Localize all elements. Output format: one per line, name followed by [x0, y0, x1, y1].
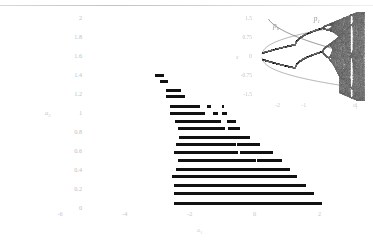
- parameter-interval-bar: [174, 151, 238, 154]
- main-y-tick-label: 1.8: [36, 33, 82, 40]
- inset-x-tick-label: -2: [266, 102, 290, 108]
- inset-bifurcation-plot: 1.50.750-0.75-1.5 -2-11 p0p1 x a1: [214, 2, 373, 120]
- main-y-tick-label: 2: [36, 14, 82, 21]
- main-x-tick-label: -4: [110, 210, 140, 217]
- main-x-tick-label: 2: [305, 210, 335, 217]
- main-x-axis-ticks: -6-4-202: [0, 210, 373, 220]
- parameter-interval-bar: [174, 184, 306, 187]
- main-y-tick-label: 0.8: [36, 128, 82, 135]
- inset-y-tick-label: 1.5: [222, 15, 252, 21]
- parameter-interval-bar: [257, 159, 282, 162]
- main-x-tick-label: -2: [175, 210, 205, 217]
- main-y-tick-label: 0.2: [36, 185, 82, 192]
- main-x-tick-label: -6: [45, 210, 75, 217]
- inset-y-axis-label: x: [236, 54, 238, 60]
- parameter-interval-bar: [166, 89, 180, 92]
- inset-point-label: p0: [273, 21, 279, 31]
- parameter-interval-bar: [207, 105, 211, 108]
- parameter-interval-bar: [176, 143, 236, 146]
- inset-y-tick-label: -0.75: [222, 72, 252, 78]
- parameter-interval-bar: [176, 168, 290, 171]
- parameter-interval-bar: [170, 112, 205, 115]
- figure-root: 00.20.40.60.811.21.41.61.82 -6-4-202 a2 …: [0, 0, 373, 241]
- parameter-interval-bar: [237, 143, 260, 146]
- parameter-interval-bar: [160, 80, 168, 83]
- inset-x-axis-label: a1: [353, 102, 358, 110]
- parameter-interval-bar: [178, 127, 225, 130]
- main-x-tick-label: 0: [240, 210, 270, 217]
- main-y-tick-label: 1.2: [36, 90, 82, 97]
- parameter-interval-bar: [178, 159, 256, 162]
- parameter-interval-bar: [229, 136, 250, 139]
- inset-point-label: p1: [314, 14, 320, 24]
- main-y-tick-label: 0.4: [36, 166, 82, 173]
- inset-y-tick-label: 0.75: [222, 34, 252, 40]
- main-y-tick-label: 1.4: [36, 71, 82, 78]
- parameter-interval-bar: [166, 95, 184, 98]
- main-x-axis-label: a1: [197, 226, 203, 235]
- main-y-tick-label: 0.6: [36, 147, 82, 154]
- inset-y-tick-label: -1.5: [222, 91, 252, 97]
- main-y-tick-label: 1: [36, 109, 82, 116]
- parameter-interval-bar: [174, 202, 321, 205]
- inset-x-tick-label: -1: [292, 102, 316, 108]
- main-y-tick-label: 1.6: [36, 52, 82, 59]
- parameter-interval-bar: [170, 105, 200, 108]
- parameter-interval-bar: [240, 151, 273, 154]
- parameter-interval-bar: [155, 74, 164, 77]
- parameter-interval-bar: [175, 120, 221, 123]
- main-y-axis-label: a2: [45, 109, 51, 118]
- parameter-interval-bar: [179, 136, 232, 139]
- parameter-interval-bar: [228, 127, 240, 130]
- main-y-axis-ticks: 00.20.40.60.811.21.41.61.82: [30, 0, 82, 241]
- parameter-interval-bar: [174, 192, 314, 195]
- parameter-interval-bar: [227, 120, 236, 123]
- parameter-interval-bar: [172, 175, 297, 178]
